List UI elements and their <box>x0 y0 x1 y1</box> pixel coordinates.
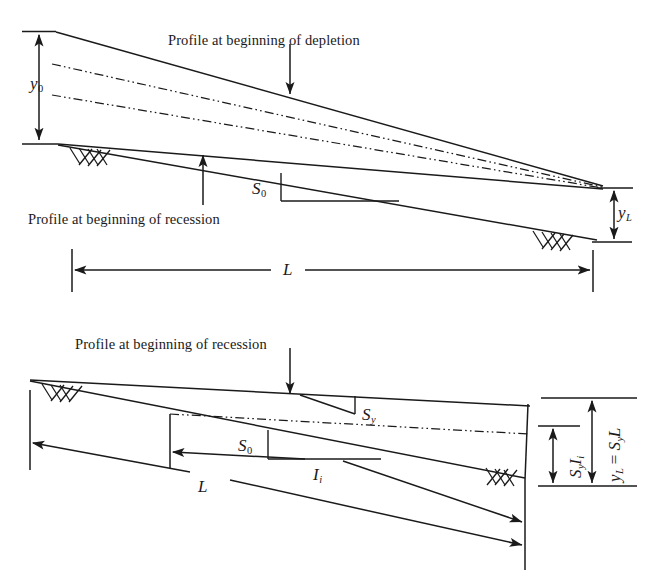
depletion-profile-line <box>56 32 603 186</box>
figure-root: Profile at beginning of depletion Profil… <box>0 0 646 578</box>
label-L-bottom: L <box>198 478 207 495</box>
label-y0: y0 <box>30 75 43 92</box>
label-sy-base: S <box>362 405 371 424</box>
caption-depletion: Profile at beginning of depletion <box>168 33 360 48</box>
label-sy-ii: SyIi <box>567 456 584 478</box>
label-Ii-base: I <box>313 465 319 484</box>
label-Ii-sub: i <box>319 474 322 485</box>
label-yLeq-bigL: L <box>605 428 624 437</box>
label-sy-ii-S: S <box>566 470 585 479</box>
label-L-top-base: L <box>283 260 292 279</box>
label-yLeq-S: S <box>605 442 624 451</box>
label-yL-base: y <box>618 203 626 222</box>
label-yL-sub: L <box>626 212 632 223</box>
recession-profile-line <box>58 144 603 189</box>
top-panel-geometry <box>22 32 633 293</box>
label-s0-top: S0 <box>252 180 266 197</box>
label-sy-ii-y: y <box>575 464 586 469</box>
bottom-L-dimension-left <box>33 443 190 472</box>
label-yL: yL <box>618 204 631 221</box>
label-yLeq-L: L <box>614 468 625 474</box>
label-yLeq-sy: y <box>614 437 625 442</box>
bottom-L-dimension-right <box>230 480 522 545</box>
bottom-panel-geometry <box>30 348 637 570</box>
label-sy: Sy <box>362 406 375 423</box>
label-yLeq-equals: = <box>605 451 624 469</box>
bottom-right-face <box>525 404 528 480</box>
diagram-svg <box>0 0 646 578</box>
label-s0-bottom-sub: 0 <box>247 445 252 456</box>
left-support-hatch-icon <box>70 148 110 166</box>
label-sy-ii-i: i <box>575 456 586 459</box>
label-s0-bottom: S0 <box>238 437 252 454</box>
label-yLeq-y: y <box>605 474 624 482</box>
sy-hypotenuse-leg <box>300 395 355 414</box>
bottom-recession-surface-line <box>30 380 530 406</box>
bottom-left-support-hatch-icon <box>42 384 82 402</box>
label-y0-sub: 0 <box>38 83 43 94</box>
label-Ii: Ii <box>313 466 322 483</box>
caption-recession-top: Profile at beginning of recession <box>28 212 220 227</box>
label-y0-base: y <box>30 74 38 93</box>
label-s0-top-sub: 0 <box>261 188 266 199</box>
caption-recession-bottom: Profile at beginning of recession <box>75 337 267 352</box>
label-s0-top-base: S <box>252 179 261 198</box>
label-yL-equals-syL: yL = SyL <box>606 428 623 482</box>
bottom-channel-bed-line <box>30 381 525 478</box>
intermediate-profile-line-1 <box>52 64 602 187</box>
bottom-intermediate-surface-line <box>170 414 528 434</box>
label-s0-bottom-base: S <box>238 436 247 455</box>
label-L-bottom-base: L <box>198 477 207 496</box>
label-sy-sub: y <box>371 414 376 425</box>
label-L-top: L <box>283 261 292 278</box>
